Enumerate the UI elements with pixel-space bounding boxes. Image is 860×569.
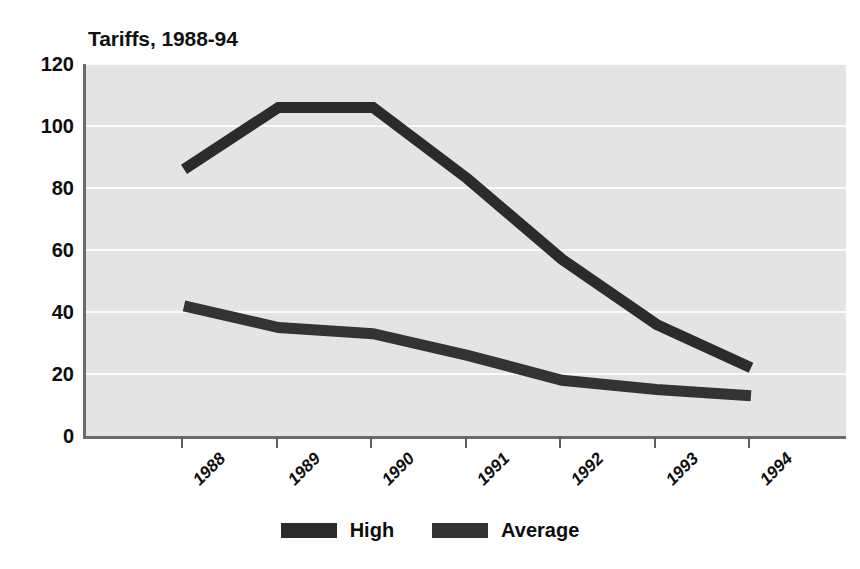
x-axis-tick-label: 1991 bbox=[473, 449, 514, 490]
y-axis-tick-label: 120 bbox=[0, 53, 74, 76]
y-axis-tick-label: 100 bbox=[0, 115, 74, 138]
x-axis-labels: 1988198919901991199219931994 bbox=[83, 449, 846, 509]
series-layer bbox=[86, 64, 846, 436]
chart-title: Tariffs, 1988-94 bbox=[88, 27, 238, 51]
x-axis-tick-label: 1990 bbox=[378, 449, 419, 490]
x-axis-tick-label: 1992 bbox=[567, 449, 608, 490]
y-axis-tick-label: 80 bbox=[0, 177, 74, 200]
legend-label: High bbox=[350, 519, 394, 542]
x-axis-tick bbox=[465, 437, 467, 448]
x-axis-tick bbox=[654, 437, 656, 448]
x-axis-tick-label: 1994 bbox=[756, 449, 797, 490]
y-axis-tick-label: 0 bbox=[0, 425, 74, 448]
x-axis-tick-label: 1989 bbox=[284, 449, 325, 490]
legend-label: Average bbox=[501, 519, 579, 542]
x-axis-tick-label: 1993 bbox=[662, 449, 703, 490]
x-axis-ticks bbox=[83, 437, 846, 449]
x-axis-tick-label: 1988 bbox=[189, 449, 230, 490]
legend-swatch-icon bbox=[281, 523, 337, 538]
y-axis: 020406080100120 bbox=[0, 0, 74, 569]
x-axis-tick bbox=[559, 437, 561, 448]
chart-container: Tariffs, 1988-94 020406080100120 1988198… bbox=[0, 0, 860, 569]
y-axis-tick-label: 60 bbox=[0, 239, 74, 262]
y-axis-tick-label: 40 bbox=[0, 301, 74, 324]
x-axis-tick bbox=[370, 437, 372, 448]
x-axis-tick bbox=[181, 437, 183, 448]
x-axis-tick bbox=[748, 437, 750, 448]
chart-legend: HighAverage bbox=[0, 519, 860, 542]
series-line bbox=[184, 306, 751, 396]
legend-entry[interactable]: High bbox=[281, 519, 394, 542]
y-axis-tick-label: 20 bbox=[0, 363, 74, 386]
x-axis-tick bbox=[276, 437, 278, 448]
legend-swatch-icon bbox=[432, 523, 488, 538]
legend-entry[interactable]: Average bbox=[432, 519, 579, 542]
plot-area bbox=[83, 64, 846, 439]
